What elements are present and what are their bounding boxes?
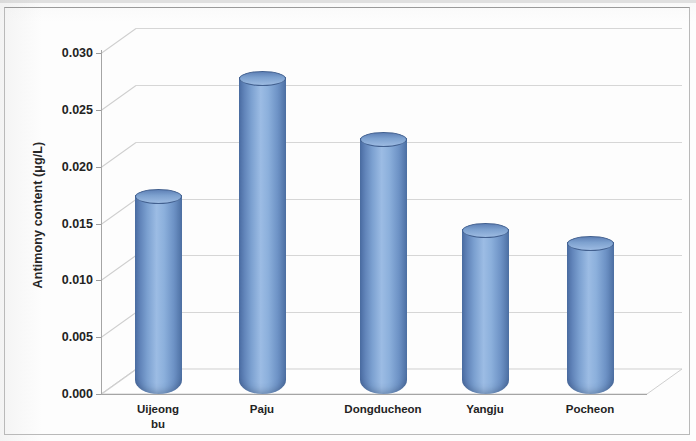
bar-4	[462, 223, 509, 394]
x-axis-line	[101, 394, 647, 395]
gridline	[136, 142, 682, 143]
bar-5	[567, 236, 614, 394]
bar-3	[360, 132, 407, 394]
gridline	[136, 85, 682, 86]
x-axis-tick-label: Uijeong bu	[98, 402, 218, 432]
y-axis-tick-label: 0.015	[35, 217, 93, 231]
gridline	[136, 199, 682, 200]
y-axis-tick-label: 0.005	[35, 330, 93, 344]
figure-page: Antimony content (μg/L) 0.0300.0250.0200…	[0, 0, 696, 441]
bar-body	[462, 229, 509, 394]
y-axis-line	[101, 50, 102, 395]
y-axis-tick-label: 0.000	[35, 387, 93, 401]
bar-top-ellipse	[567, 236, 614, 251]
bar-body	[239, 77, 286, 394]
gridline-depth-connector	[101, 142, 137, 168]
gridline	[136, 28, 682, 29]
gridline-depth-connector	[101, 312, 137, 338]
gridline-depth-connector	[101, 255, 137, 281]
x-axis-tick-label: Paju	[202, 402, 322, 417]
bar-top-ellipse	[239, 71, 286, 86]
y-axis-tick-label: 0.010	[35, 273, 93, 287]
y-axis-tick-label: 0.020	[35, 160, 93, 174]
gridline-depth-connector	[101, 28, 137, 54]
x-axis-tick-label: Yangju	[425, 402, 545, 417]
bar-body	[360, 138, 407, 394]
gridline-depth-connector	[101, 85, 137, 111]
y-axis-tick-label: 0.030	[35, 46, 93, 60]
y-axis-tick-label: 0.025	[35, 103, 93, 117]
bar-body	[567, 242, 614, 394]
gridline-depth-connector	[101, 199, 137, 225]
bar-1	[135, 189, 182, 394]
bar-top-ellipse	[135, 189, 182, 204]
bar-body	[135, 195, 182, 394]
x-axis-tick-label: Pocheon	[530, 402, 650, 417]
bar-2	[239, 71, 286, 394]
gridline-depth-connector	[101, 369, 137, 395]
chart-plot-area: Antimony content (μg/L) 0.0300.0250.0200…	[0, 0, 696, 441]
y-axis-title: Antimony content (μg/L)	[31, 85, 45, 345]
